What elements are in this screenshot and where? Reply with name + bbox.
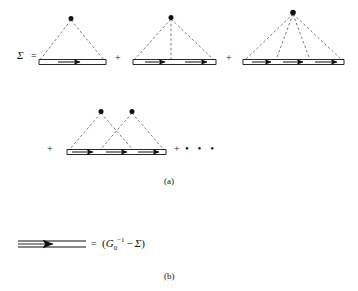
vertex-dot <box>69 16 74 21</box>
close-paren: ) <box>141 237 145 249</box>
diagram-panel-b-propagator <box>18 241 86 247</box>
G-symbol: G <box>106 237 114 249</box>
diagram-term-1 <box>39 16 106 65</box>
equals-sign-panel-b: = <box>91 239 97 249</box>
plus-sign-1: + <box>115 53 121 63</box>
ellipsis-dots: • • • <box>185 143 217 154</box>
plus-sign-4: + <box>174 144 180 154</box>
dashed-interaction-lines-term-4 <box>69 113 164 150</box>
plus-sign-2: + <box>226 53 232 63</box>
vertex-dot <box>169 15 174 20</box>
panel-label-b: (b) <box>164 272 175 281</box>
vertex-dot <box>99 109 104 114</box>
plus-sign-3: + <box>47 144 53 154</box>
panel-label-a: (a) <box>164 177 174 186</box>
diagram-term-4 <box>67 109 166 155</box>
dashed-interaction-lines-term-2 <box>134 19 214 60</box>
dashed-interaction-lines-term-1 <box>40 20 104 60</box>
diagram-term-3 <box>243 10 344 65</box>
vertex-dot <box>130 109 135 114</box>
sigma-symbol: Σ <box>17 50 24 61</box>
dashed-interaction-lines-term-3 <box>245 14 342 60</box>
G-superscript: −1 <box>117 236 124 244</box>
G-subscript: 0 <box>114 244 118 252</box>
equals-sign-panel-a: = <box>31 51 37 61</box>
minus-sign: − <box>125 237 135 249</box>
figure-container: Σ = + + + + • • • (a) (b) = (G0−1−Σ) <box>0 0 358 291</box>
vertex-dot <box>290 10 296 16</box>
propagator-definition-formula: (G0−1−Σ) <box>102 237 145 252</box>
diagram-term-2 <box>133 15 216 65</box>
